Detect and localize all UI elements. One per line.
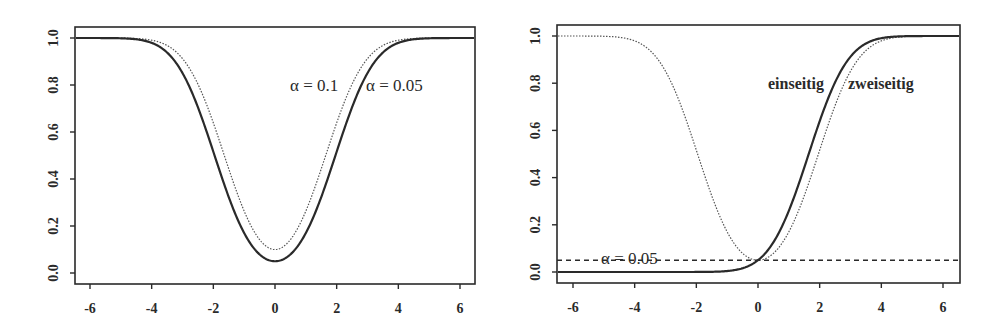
x-tick-label: -6 (567, 300, 579, 315)
x-tick-label: -6 (84, 301, 96, 316)
y-tick-label: 0.4 (528, 169, 543, 187)
x-axis: -6-4-20246 (567, 283, 946, 315)
plot-frame (75, 27, 475, 284)
x-tick-label: -2 (690, 300, 702, 315)
label-alpha-0.1: α = 0.1 (290, 76, 338, 95)
x-tick-label: 2 (816, 300, 823, 315)
right-power-plot: 0.00.20.40.60.81.0 -6-4-20246 einseitig … (528, 25, 960, 315)
label-zweiseitig: zweiseitig (848, 75, 914, 93)
x-axis: -6-4-20246 (84, 284, 463, 316)
plot-frame (557, 25, 960, 283)
y-tick-label: 0.8 (46, 76, 61, 94)
y-axis: 0.00.20.40.60.81.0 (528, 27, 557, 281)
left-power-plot: 0.00.20.40.60.81.0 -6-4-20246 α = 0.1 α … (46, 27, 475, 316)
y-axis: 0.00.20.40.60.81.0 (46, 29, 75, 282)
curve-alpha-0.05 (76, 38, 474, 261)
y-tick-label: 0.4 (46, 170, 61, 188)
y-tick-label: 0.2 (46, 217, 61, 235)
y-tick-label: 1.0 (528, 27, 543, 45)
x-tick-label: -4 (629, 300, 641, 315)
x-tick-label: 4 (878, 300, 885, 315)
y-tick-label: 0.0 (46, 264, 61, 282)
y-tick-label: 0.8 (528, 74, 543, 92)
curve-zweiseitig (558, 36, 959, 260)
x-tick-label: 0 (272, 301, 279, 316)
x-tick-label: -2 (207, 301, 219, 316)
x-tick-label: 2 (333, 301, 340, 316)
label-alpha-0.05: α = 0.05 (366, 76, 423, 95)
x-tick-label: -4 (146, 301, 158, 316)
x-tick-label: 6 (940, 300, 947, 315)
figure-canvas: 0.00.20.40.60.81.0 -6-4-20246 α = 0.1 α … (0, 0, 991, 331)
x-tick-label: 6 (457, 301, 464, 316)
curve-einseitig (558, 36, 959, 272)
x-tick-label: 0 (755, 300, 762, 315)
y-tick-label: 0.6 (46, 123, 61, 141)
y-tick-label: 1.0 (46, 29, 61, 47)
y-tick-label: 0.0 (528, 263, 543, 281)
y-tick-label: 0.6 (528, 122, 543, 140)
curve-alpha-0.1 (76, 38, 474, 250)
label-einseitig: einseitig (768, 75, 824, 93)
y-tick-label: 0.2 (528, 216, 543, 234)
x-tick-label: 4 (395, 301, 402, 316)
label-alpha-reference: α = 0.05 (601, 249, 658, 268)
